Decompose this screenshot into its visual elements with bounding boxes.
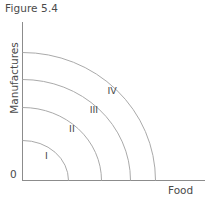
figure-container: Figure 5.4 0 Manufactures Food I II III … — [0, 0, 209, 199]
y-axis-label: Manufactures — [8, 40, 20, 116]
curve-label-iv: IV — [108, 85, 117, 96]
curve-label-i: I — [45, 150, 48, 161]
origin-label: 0 — [10, 168, 17, 180]
x-axis-label: Food — [168, 184, 193, 196]
ppf-curve-ii — [23, 108, 102, 181]
ppf-curve-iv — [23, 53, 156, 181]
ppf-plot — [0, 0, 209, 199]
curve-label-iii: III — [90, 104, 98, 115]
curve-label-ii: II — [69, 123, 75, 134]
